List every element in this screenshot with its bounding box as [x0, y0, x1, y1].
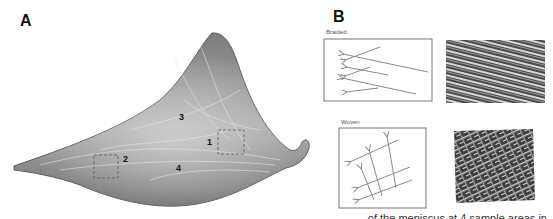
woven-micrograph — [454, 129, 535, 203]
woven-label: Woven — [341, 119, 360, 125]
panel-b-label: B — [333, 8, 345, 26]
figure-caption-fragment: … of the meniscus at 4 sample areas in — [0, 212, 553, 219]
woven-diagram — [339, 128, 426, 208]
region-label-1: 1 — [207, 137, 212, 147]
figure-graphics — [0, 0, 553, 219]
meniscus-photo — [14, 33, 309, 206]
region-label-2: 2 — [123, 154, 128, 164]
region-label-3: 3 — [179, 112, 184, 122]
braided-micrograph — [446, 40, 545, 103]
braided-diagram — [324, 39, 432, 101]
region-label-4: 4 — [176, 163, 181, 173]
braided-label: Braided — [326, 29, 347, 35]
